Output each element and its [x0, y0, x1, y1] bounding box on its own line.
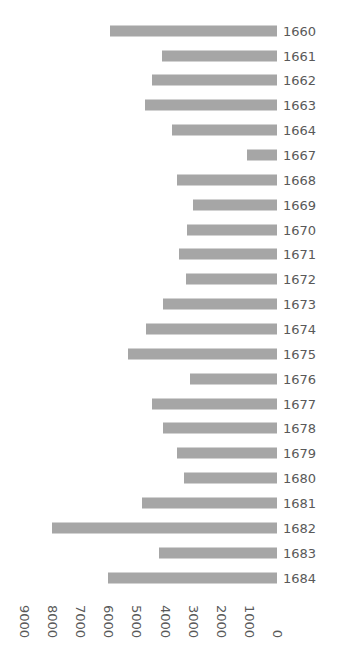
bar[interactable] [187, 224, 277, 235]
category-label: 1672 [283, 273, 316, 286]
category-label: 1680 [283, 472, 316, 485]
bar-row: 1682 [24, 515, 277, 540]
bar-row: 1660 [24, 18, 277, 43]
bar-row: 1669 [24, 192, 277, 217]
bar-row: 1671 [24, 242, 277, 267]
bar[interactable] [179, 249, 277, 260]
x-axis-tick-label: 9000 [18, 605, 31, 638]
bar-row: 1676 [24, 366, 277, 391]
category-label: 1676 [283, 372, 316, 385]
x-axis-tick-label: 0 [271, 630, 284, 638]
category-label: 1662 [283, 74, 316, 87]
bar-row: 1675 [24, 341, 277, 366]
category-label: 1679 [283, 447, 316, 460]
bar[interactable] [163, 423, 277, 434]
bar-row: 1683 [24, 540, 277, 565]
bar[interactable] [142, 498, 277, 509]
bar[interactable] [163, 299, 277, 310]
bar[interactable] [152, 75, 277, 86]
category-label: 1668 [283, 173, 316, 186]
bar-row: 1663 [24, 93, 277, 118]
category-label: 1673 [283, 298, 316, 311]
bar[interactable] [172, 125, 277, 136]
x-axis-tick-label: 8000 [46, 605, 59, 638]
category-label: 1674 [283, 322, 316, 335]
bar[interactable] [146, 323, 277, 334]
bar-row: 1681 [24, 491, 277, 516]
category-label: 1678 [283, 422, 316, 435]
category-label: 1683 [283, 546, 316, 559]
x-axis-tick-label: 1000 [242, 605, 255, 638]
x-axis-tick-label: 3000 [186, 605, 199, 638]
bar[interactable] [247, 149, 277, 160]
bar-row: 1673 [24, 292, 277, 317]
category-label: 1667 [283, 148, 316, 161]
bar-row: 1684 [24, 565, 277, 590]
bar-row: 1667 [24, 143, 277, 168]
category-label: 1681 [283, 497, 316, 510]
bar[interactable] [152, 398, 277, 409]
category-label: 1664 [283, 124, 316, 137]
bar-row: 1664 [24, 118, 277, 143]
category-label: 1661 [283, 49, 316, 62]
bar-row: 1677 [24, 391, 277, 416]
x-axis: 9000800070006000500040003000200010000 [24, 592, 277, 648]
x-axis-tick-label: 7000 [74, 605, 87, 638]
bar-row: 1668 [24, 167, 277, 192]
bar-row: 1674 [24, 317, 277, 342]
bar-row: 1678 [24, 416, 277, 441]
bar-row: 1672 [24, 267, 277, 292]
category-label: 1669 [283, 198, 316, 211]
bar[interactable] [184, 473, 277, 484]
bar[interactable] [162, 50, 277, 61]
x-axis-tick-label: 6000 [102, 605, 115, 638]
x-axis-tick-label: 5000 [130, 605, 143, 638]
bar-row: 1670 [24, 217, 277, 242]
category-label: 1670 [283, 223, 316, 236]
bar[interactable] [177, 174, 277, 185]
plot-area: 1684168316821681168016791678167716761675… [24, 18, 277, 590]
category-label: 1684 [283, 571, 316, 584]
bar-row: 1679 [24, 441, 277, 466]
bar[interactable] [159, 547, 277, 558]
bar-row: 1661 [24, 43, 277, 68]
bar[interactable] [145, 100, 277, 111]
bar-row: 1680 [24, 466, 277, 491]
bar[interactable] [193, 199, 277, 210]
x-axis-tick-label: 2000 [214, 605, 227, 638]
bar[interactable] [190, 373, 277, 384]
bar[interactable] [52, 522, 277, 533]
category-label: 1677 [283, 397, 316, 410]
category-label: 1675 [283, 347, 316, 360]
category-label: 1682 [283, 521, 316, 534]
bar[interactable] [186, 274, 277, 285]
bar-chart-figure: 1684168316821681168016791678167716761675… [0, 0, 356, 648]
category-label: 1663 [283, 99, 316, 112]
x-axis-tick-label: 4000 [158, 605, 171, 638]
category-label: 1671 [283, 248, 316, 261]
bar[interactable] [128, 348, 277, 359]
bar[interactable] [108, 572, 277, 583]
bar[interactable] [110, 25, 277, 36]
bar-row: 1662 [24, 68, 277, 93]
category-label: 1660 [283, 24, 316, 37]
bar[interactable] [177, 448, 277, 459]
